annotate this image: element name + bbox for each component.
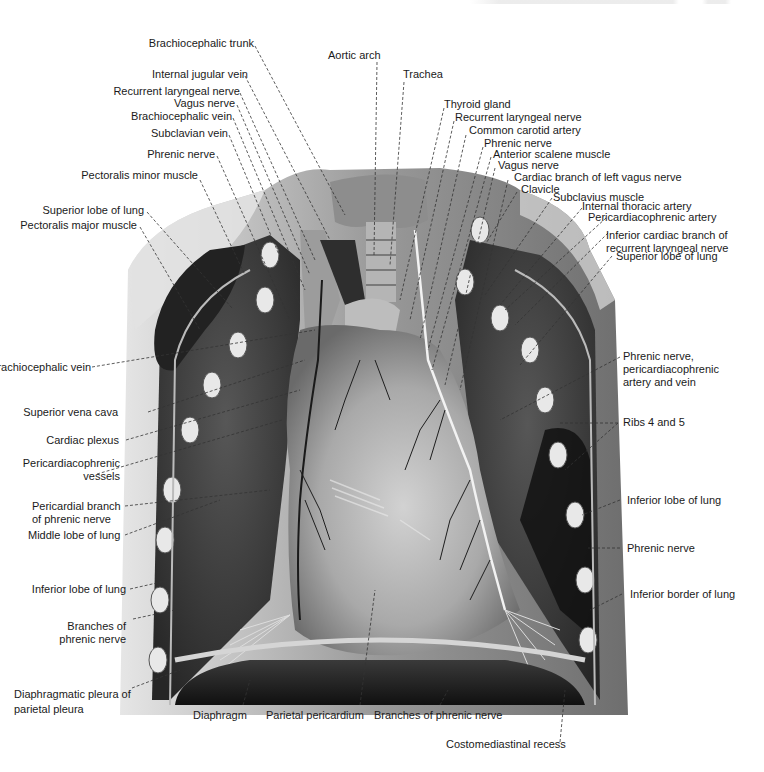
label-pericardiacophrenic-artery: Pericardiacophrenic artery — [588, 211, 716, 224]
label-thyroid-gland: Thyroid gland — [444, 98, 511, 111]
label-brachiocephalic-trunk: Brachiocephalic trunk — [149, 37, 254, 50]
label-diaphragm: Diaphragm — [193, 709, 247, 722]
label-aortic-arch: Aortic arch — [328, 49, 381, 62]
label-ribs-4-and-5: Ribs 4 and 5 — [623, 416, 685, 429]
label-branches-of-phrenic-nerve-left: Branches of phrenic nerve — [59, 620, 126, 646]
label-line: Inferior cardiac branch of — [606, 229, 728, 242]
label-common-carotid-artery: Common carotid artery — [469, 124, 581, 137]
label-inferior-border-of-lung: Inferior border of lung — [630, 588, 735, 601]
label-line: parietal pleura — [14, 702, 131, 717]
label-parietal-pericardium: Parietal pericardium — [266, 709, 364, 722]
label-inferior-lobe-of-lung-right: Inferior lobe of lung — [32, 583, 126, 596]
label-line: of phrenic nerve — [32, 513, 121, 526]
label-diaphragmatic-pleura: Diaphragmatic pleura of parietal pleura — [14, 687, 131, 717]
label-pectoralis-minor-muscle: Pectoralis minor muscle — [81, 169, 198, 182]
label-recurrent-laryngeal-nerve-left: Recurrent laryngeal nerve — [455, 111, 582, 124]
label-vagus-nerve-right: Vagus nerve — [174, 97, 235, 110]
label-trachea: Trachea — [403, 68, 443, 81]
label-internal-jugular-vein: Internal jugular vein — [152, 68, 248, 81]
label-line: vessels — [23, 470, 120, 483]
label-inferior-lobe-of-lung-left: Inferior lobe of lung — [627, 494, 721, 507]
label-pectoralis-major-muscle: Pectoralis major muscle — [20, 219, 137, 232]
label-line: phrenic nerve — [59, 633, 126, 646]
label-line: Phrenic nerve, — [623, 350, 719, 363]
label-middle-lobe-of-lung: Middle lobe of lung — [28, 529, 120, 542]
label-costomediastinal-recess: Costomediastinal recess — [446, 738, 566, 751]
label-line: Branches of — [59, 620, 126, 633]
thyroid — [330, 174, 428, 228]
label-superior-vena-cava: Superior vena cava — [23, 406, 118, 419]
label-superior-lobe-of-lung-right: Superior lobe of lung — [42, 204, 144, 217]
label-phrenic-nerve-right: Phrenic nerve — [147, 148, 215, 161]
label-line: Pericardial branch — [32, 500, 121, 513]
label-line: pericardiacophrenic — [623, 363, 719, 376]
label-branches-of-phrenic-nerve-bottom: Branches of phrenic nerve — [374, 709, 502, 722]
label-phrenic-nerve-pericardiacophrenic: Phrenic nerve, pericardiacophrenic arter… — [623, 350, 719, 389]
label-line: Pericardiacophrenic — [23, 457, 120, 470]
label-superior-lobe-of-lung-left: Superior lobe of lung — [616, 250, 718, 263]
label-line: Diaphragmatic pleura of — [14, 687, 131, 702]
diaphragm — [175, 660, 585, 705]
label-cardiac-plexus: Cardiac plexus — [46, 434, 119, 447]
label-subclavian-vein: Subclavian vein — [151, 127, 228, 140]
label-brachiocephalic-vein-lower: Brachiocephalic vein — [0, 361, 91, 374]
label-brachiocephalic-vein-upper: Brachiocephalic vein — [131, 110, 232, 123]
label-pericardial-branch-phrenic: Pericardial branch of phrenic nerve — [32, 500, 121, 526]
label-pericardiacophrenic-vessels: Pericardiacophrenic vessels — [23, 457, 120, 483]
label-phrenic-nerve-left-lower: Phrenic nerve — [627, 542, 695, 555]
label-line: artery and vein — [623, 376, 719, 389]
